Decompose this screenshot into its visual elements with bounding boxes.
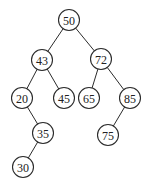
node-label: 85: [124, 92, 136, 106]
node-label: 50: [63, 14, 75, 28]
edge-50-43: [48, 29, 63, 52]
tree-node-20: 20: [12, 88, 33, 109]
edge-35-30: [28, 142, 37, 158]
tree-node-72: 72: [91, 49, 112, 70]
node-label: 43: [36, 54, 48, 68]
binary-search-tree-diagram: 50437220456585357530: [0, 0, 151, 189]
node-label: 65: [83, 92, 95, 106]
node-label: 45: [58, 92, 70, 106]
edge-50-72: [76, 28, 95, 51]
node-label: 30: [17, 161, 29, 175]
tree-node-75: 75: [98, 125, 119, 146]
edge-43-45: [47, 69, 58, 89]
tree-node-65: 65: [79, 88, 100, 109]
tree-node-30: 30: [13, 157, 34, 178]
tree-node-35: 35: [33, 123, 54, 144]
node-label: 35: [37, 127, 49, 141]
tree-nodes: 50437220456585357530: [12, 10, 141, 178]
node-label: 72: [95, 53, 107, 67]
edge-20-35: [27, 107, 37, 124]
tree-node-50: 50: [59, 10, 80, 31]
edge-72-65: [92, 69, 98, 88]
edge-43-20: [27, 69, 37, 88]
edge-85-75: [113, 107, 124, 126]
tree-node-43: 43: [32, 50, 53, 71]
tree-node-85: 85: [120, 88, 141, 109]
edge-72-85: [107, 67, 123, 89]
tree-node-45: 45: [54, 88, 75, 109]
node-label: 20: [16, 92, 28, 106]
node-label: 75: [102, 129, 114, 143]
